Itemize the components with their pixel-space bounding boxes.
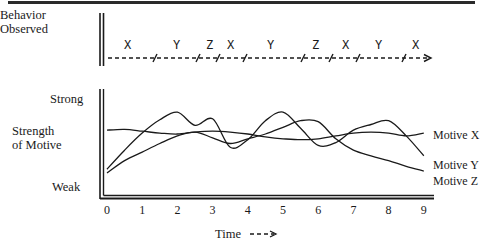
time-arrow-icon xyxy=(250,231,276,237)
motive-z-curve xyxy=(107,120,424,173)
behavior-axis xyxy=(100,13,431,66)
motive-y-curve xyxy=(107,112,424,169)
diagram-canvas xyxy=(0,0,485,246)
motive-curves xyxy=(107,112,424,173)
motive-axes xyxy=(100,89,434,199)
